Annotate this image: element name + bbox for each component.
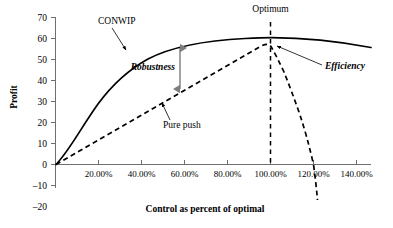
y-tick-label-60: 60: [38, 34, 48, 44]
x-axis-tick-labels: 20.00% 40.00% 60.00% 80.00% 100.00% 120.…: [85, 169, 374, 179]
conwip-leader-arrow: [112, 28, 126, 50]
optimum-label: Optimum: [252, 4, 289, 14]
x-tick-label-20: 20.00%: [85, 169, 113, 179]
axes: [56, 17, 372, 188]
y-tick-label-40: 40: [38, 76, 48, 86]
y-axis-title: Profit: [9, 84, 19, 108]
y-tick-label-20: 20: [38, 118, 48, 128]
y-axis-ticks: [51, 18, 56, 186]
y-axis-tick-labels: 70 60 50 40 30 20 10 0 –10 –20: [32, 13, 48, 212]
y-tick-label-10: 10: [38, 139, 48, 149]
pure-push-label: Pure push: [163, 120, 201, 130]
x-tick-label-60: 60.00%: [171, 169, 199, 179]
y-tick-label-neg10: –10: [32, 181, 48, 191]
robustness-label: Robustness: [130, 62, 176, 72]
conwip-curve: [56, 38, 371, 165]
x-axis-ticks: [99, 160, 357, 165]
pure-push-leader-arrow: [162, 103, 170, 120]
profit-vs-control-chart: 70 60 50 40 30 20 10 0 –10 –20 20.00% 40…: [0, 0, 393, 228]
x-tick-label-100: 100.00%: [254, 169, 287, 179]
x-axis-title: Control as percent of optimal: [146, 204, 265, 214]
x-tick-label-40: 40.00%: [128, 169, 156, 179]
x-tick-label-140: 140.00%: [340, 169, 373, 179]
y-tick-label-neg20: –20: [32, 202, 48, 212]
y-tick-label-70: 70: [38, 13, 48, 23]
x-tick-label-120: 120.00%: [297, 169, 330, 179]
conwip-label: CONWIP: [98, 16, 135, 26]
y-tick-label-0: 0: [42, 160, 47, 170]
y-tick-label-30: 30: [38, 97, 48, 107]
efficiency-label: Efficiency: [324, 61, 366, 71]
y-tick-label-50: 50: [38, 55, 48, 65]
efficiency-leader-arrow: [277, 46, 322, 65]
x-tick-label-80: 80.00%: [214, 169, 242, 179]
chart-figure: 70 60 50 40 30 20 10 0 –10 –20 20.00% 40…: [0, 0, 393, 228]
